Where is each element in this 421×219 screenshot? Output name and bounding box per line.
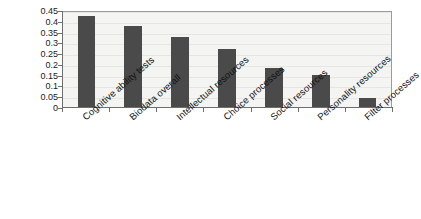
- x-axis-tick-mark: [345, 108, 346, 112]
- y-axis-tick-mark: [58, 76, 62, 77]
- x-axis-tick-mark: [298, 108, 299, 112]
- y-axis-tick-mark: [58, 11, 62, 12]
- bar[interactable]: [78, 16, 96, 107]
- y-axis-tick-label: 0.45: [40, 7, 58, 16]
- y-axis-tick-mark: [58, 97, 62, 98]
- x-axis-tick-mark: [62, 108, 63, 112]
- y-axis-tick-mark: [58, 43, 62, 44]
- y-axis-tick-label: 0.1: [45, 82, 58, 91]
- y-axis-tick-label: 0.2: [45, 60, 58, 69]
- y-axis-tick-label: 0.25: [40, 50, 58, 59]
- y-axis-tick-mark: [58, 86, 62, 87]
- y-axis-tick-mark: [58, 22, 62, 23]
- x-axis-tick-mark: [251, 108, 252, 112]
- y-axis-tick-mark: [58, 54, 62, 55]
- y-axis-line: [62, 11, 63, 108]
- y-axis-tick-label: 0.05: [40, 93, 58, 102]
- y-axis-tick-label: 0.4: [45, 17, 58, 26]
- x-axis-tick-mark: [203, 108, 204, 112]
- y-axis-tick-mark: [58, 33, 62, 34]
- y-axis-tick-label: 0.3: [45, 39, 58, 48]
- y-axis-tick-label: 0.35: [40, 28, 58, 37]
- x-axis-tick-mark: [392, 108, 393, 112]
- x-axis-tick-mark: [109, 108, 110, 112]
- y-axis-tick-mark: [58, 65, 62, 66]
- y-axis-tick-label: 0.15: [40, 71, 58, 80]
- x-axis-tick-mark: [156, 108, 157, 112]
